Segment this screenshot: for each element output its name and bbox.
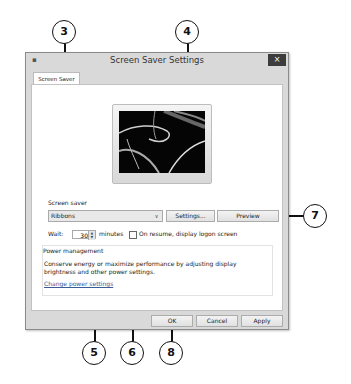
callout-7: 7: [303, 204, 327, 228]
close-button[interactable]: ×: [268, 54, 286, 66]
spinner-arrows-icon[interactable]: ▲▼: [88, 231, 95, 240]
tab-strip: Screen Saver: [31, 72, 282, 84]
wait-spinner[interactable]: 30 ▲▼: [72, 230, 96, 239]
power-description-line2: brightness and other power settings.: [44, 268, 155, 275]
apply-button[interactable]: Apply: [241, 315, 283, 327]
screen-saver-label: Screen saver: [48, 199, 87, 206]
window-title: Screen Saver Settings: [26, 55, 288, 65]
wait-value[interactable]: 30: [80, 232, 88, 239]
screen-saver-settings-dialog: ▪ Screen Saver Settings × Screen Saver S: [25, 52, 289, 330]
callout-4: 4: [175, 20, 199, 44]
settings-button[interactable]: Settings...: [166, 210, 215, 222]
wait-label: Wait:: [48, 230, 63, 237]
preview-monitor: [112, 104, 212, 184]
preview-button[interactable]: Preview: [217, 210, 279, 222]
screen-saver-tab-panel: Screen saver Ribbons ∨ Settings... Previ…: [31, 84, 283, 311]
power-management-group: Power management Conserve energy or maxi…: [42, 245, 273, 296]
callout-3: 3: [52, 20, 76, 44]
ribbons-preview-image: [119, 111, 205, 173]
preview-screen: [119, 111, 205, 173]
screen-saver-selected-value: Ribbons: [51, 211, 75, 221]
resume-checkbox-label[interactable]: On resume, display logon screen: [139, 230, 237, 237]
screen-saver-dropdown[interactable]: Ribbons ∨: [48, 210, 163, 222]
callout-6: 6: [120, 341, 144, 365]
power-management-title: Power management: [43, 247, 103, 254]
change-power-settings-link[interactable]: Change power settings: [44, 280, 113, 287]
minutes-label-visible: minutes: [99, 230, 123, 237]
power-description-line1: Conserve energy or maximize performance …: [44, 260, 236, 267]
resume-checkbox[interactable]: [129, 231, 137, 239]
cancel-button[interactable]: Cancel: [196, 315, 238, 327]
ok-button[interactable]: OK: [151, 315, 193, 327]
title-bar[interactable]: ▪ Screen Saver Settings ×: [26, 53, 288, 70]
callout-5: 5: [82, 341, 106, 365]
chevron-down-icon[interactable]: ∨: [152, 211, 161, 221]
callout-8: 8: [159, 341, 183, 365]
